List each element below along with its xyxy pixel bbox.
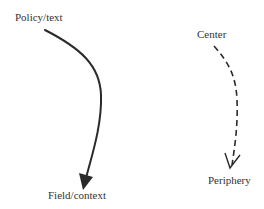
- solid-arrow-line: [45, 30, 101, 178]
- filled-arrowhead-icon: [79, 173, 93, 190]
- dashed-arrow-line: [214, 46, 237, 165]
- center-label: Center: [197, 28, 226, 40]
- field-context-label: Field/context: [48, 189, 106, 201]
- periphery-label: Periphery: [208, 174, 251, 186]
- policy-text-label: Policy/text: [15, 11, 63, 23]
